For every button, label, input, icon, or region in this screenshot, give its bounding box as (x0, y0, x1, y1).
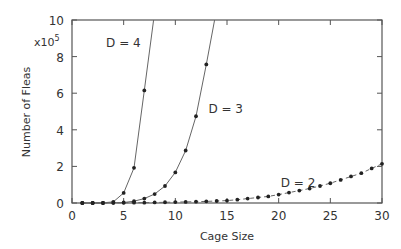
data-point (142, 89, 146, 93)
data-point (256, 196, 260, 200)
data-point (101, 201, 105, 205)
y-multiplier: x105 (34, 34, 60, 49)
series-d2: D = 2 (80, 162, 383, 205)
data-point (287, 191, 291, 195)
series-d4: D = 4 (80, 20, 153, 205)
data-point (132, 201, 136, 205)
y-tick-label: 4 (56, 124, 64, 138)
series-group: D = 4D = 3D = 2 (80, 20, 383, 205)
data-point (359, 171, 363, 175)
y-multiplier-base: x10 (34, 36, 55, 49)
data-point (142, 201, 146, 205)
data-point (122, 191, 126, 195)
x-tick-label: 10 (168, 209, 183, 223)
x-tick-label: 30 (374, 209, 389, 223)
data-point (225, 199, 229, 203)
x-tick-label: 25 (323, 209, 338, 223)
data-point (318, 184, 322, 188)
x-tick-label: 15 (219, 209, 234, 223)
data-point (215, 199, 219, 203)
data-point (184, 200, 188, 204)
series-label: D = 3 (208, 102, 243, 116)
data-point (266, 195, 270, 199)
data-point (80, 201, 84, 205)
y-tick-label: 8 (56, 51, 64, 65)
data-point (163, 184, 167, 188)
x-tick-label: 5 (120, 209, 128, 223)
series-label: D = 2 (281, 176, 316, 190)
x-tick-label: 20 (271, 209, 286, 223)
data-point (349, 175, 353, 179)
data-point (163, 200, 167, 204)
data-point (328, 181, 332, 185)
y-tick-label: 0 (56, 197, 64, 211)
data-point (184, 149, 188, 153)
data-point (153, 192, 157, 196)
data-point (142, 197, 146, 201)
data-point (277, 193, 281, 197)
data-point (173, 200, 177, 204)
data-point (246, 197, 250, 201)
data-point (153, 201, 157, 205)
data-point (132, 166, 136, 170)
data-point (204, 199, 208, 203)
data-point (194, 200, 198, 204)
data-point (122, 201, 126, 205)
y-multiplier-exp: 5 (55, 34, 60, 43)
chart: 0510152025300246810 D = 4D = 3D = 2 Cage… (0, 0, 401, 249)
data-point (370, 167, 374, 171)
data-point (111, 201, 115, 205)
series-label: D = 4 (106, 36, 141, 50)
data-point (380, 162, 384, 166)
data-point (194, 114, 198, 118)
data-point (235, 198, 239, 202)
y-axis-title: Number of Fleas (20, 67, 33, 158)
y-tick-label: 10 (49, 14, 64, 28)
series-d3: D = 3 (80, 20, 243, 205)
data-point (91, 201, 95, 205)
x-axis-title: Cage Size (200, 230, 254, 243)
series-line (82, 20, 214, 203)
y-tick-label: 6 (56, 87, 64, 101)
x-tick-label: 0 (68, 209, 76, 223)
data-point (204, 63, 208, 67)
data-point (173, 171, 177, 175)
data-point (339, 178, 343, 182)
axis-ticks: 0510152025300246810 (49, 14, 390, 223)
y-tick-label: 2 (56, 160, 64, 174)
